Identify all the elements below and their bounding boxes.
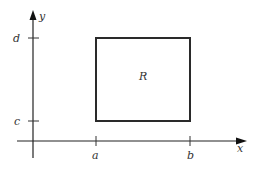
y-axis-arrowhead-icon <box>30 10 37 20</box>
y-tick-c: c <box>14 115 39 128</box>
y-axis: y <box>30 10 47 158</box>
x-tick-label-a: a <box>92 149 99 162</box>
y-tick-label-d: d <box>13 32 20 45</box>
y-axis-label: y <box>38 10 46 23</box>
rectangle-region-diagram: y x d c a b R <box>0 0 259 169</box>
x-tick-label-b: b <box>187 149 194 162</box>
y-tick-d: d <box>13 32 39 45</box>
region-label: R <box>138 70 147 83</box>
y-tick-label-c: c <box>14 115 20 128</box>
x-tick-a: a <box>92 136 99 162</box>
x-tick-b: b <box>187 136 194 162</box>
region-r: R <box>96 38 190 121</box>
x-axis: x <box>17 138 247 156</box>
x-axis-label: x <box>237 142 244 155</box>
